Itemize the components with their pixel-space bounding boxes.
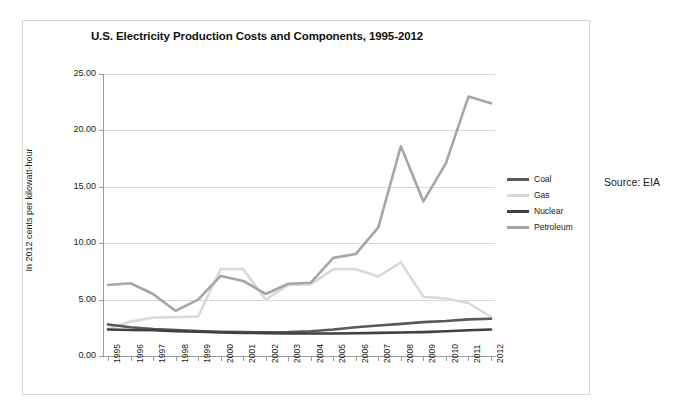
legend-label: Coal bbox=[534, 174, 551, 184]
x-tick-mark bbox=[108, 357, 109, 361]
legend-item-gas[interactable]: Gas bbox=[507, 187, 587, 203]
x-tick-mark bbox=[378, 357, 379, 361]
y-tick-mark bbox=[99, 356, 103, 357]
x-tick-mark bbox=[131, 357, 132, 361]
legend-label: Gas bbox=[534, 190, 550, 200]
y-tick-mark bbox=[99, 130, 103, 131]
legend-swatch-gas bbox=[507, 194, 529, 197]
y-tick-label: 25.00 bbox=[52, 68, 96, 78]
x-tick-mark bbox=[446, 357, 447, 361]
chart-legend: CoalGasNuclearPetroleum bbox=[507, 171, 587, 235]
legend-swatch-coal bbox=[507, 178, 529, 181]
x-tick-mark bbox=[356, 357, 357, 361]
legend-item-coal[interactable]: Coal bbox=[507, 171, 587, 187]
legend-item-petroleum[interactable]: Petroleum bbox=[507, 219, 587, 235]
y-tick-label: 15.00 bbox=[52, 181, 96, 191]
series-lines bbox=[104, 74, 495, 356]
y-tick-mark bbox=[99, 300, 103, 301]
y-tick-label: 10.00 bbox=[52, 237, 96, 247]
legend-label: Nuclear bbox=[534, 206, 563, 216]
series-line-petroleum bbox=[108, 97, 491, 311]
y-tick-label: 0.00 bbox=[52, 350, 96, 360]
x-tick-mark bbox=[491, 357, 492, 361]
series-line-gas bbox=[108, 262, 491, 329]
x-tick-mark bbox=[288, 357, 289, 361]
y-tick-label: 20.00 bbox=[52, 124, 96, 134]
legend-swatch-petroleum bbox=[507, 226, 529, 229]
x-tick-mark bbox=[243, 357, 244, 361]
y-axis-title: In 2012 cents per kilowatt-hour bbox=[24, 105, 34, 315]
x-tick-mark bbox=[423, 357, 424, 361]
x-tick-mark bbox=[198, 357, 199, 361]
x-tick-mark bbox=[468, 357, 469, 361]
x-tick-mark bbox=[176, 357, 177, 361]
x-tick-mark bbox=[311, 357, 312, 361]
x-tick-mark bbox=[221, 357, 222, 361]
legend-label: Petroleum bbox=[534, 222, 573, 232]
x-tick-label: 2012 bbox=[495, 344, 505, 363]
legend-swatch-nuclear bbox=[507, 210, 529, 213]
x-tick-mark bbox=[401, 357, 402, 361]
x-tick-mark bbox=[333, 357, 334, 361]
chart-title: U.S. Electricity Production Costs and Co… bbox=[22, 30, 492, 42]
x-tick-mark bbox=[266, 357, 267, 361]
x-tick-mark bbox=[153, 357, 154, 361]
y-tick-mark bbox=[99, 187, 103, 188]
y-tick-mark bbox=[99, 74, 103, 75]
y-tick-mark bbox=[99, 243, 103, 244]
y-tick-label: 5.00 bbox=[52, 294, 96, 304]
chart-figure: U.S. Electricity Production Costs and Co… bbox=[0, 0, 681, 418]
source-note: Source: EIA bbox=[604, 176, 660, 188]
legend-item-nuclear[interactable]: Nuclear bbox=[507, 203, 587, 219]
